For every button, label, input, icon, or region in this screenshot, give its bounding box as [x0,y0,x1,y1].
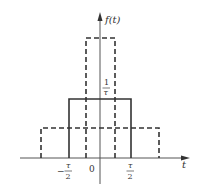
tick-right-denominator: 2 [128,172,133,181]
y-axis-arrow-icon [98,12,103,21]
height-label-numerator: 1 [104,78,109,87]
pulse-diagram: f(t) t 1 τ 0 − τ 2 τ 2 [0,0,198,191]
height-label-denominator: τ [104,88,109,97]
tick-left-sign: − [57,166,65,176]
x-axis-label: t [182,159,187,170]
tick-right-numerator: τ [128,161,133,170]
origin-label: 0 [89,164,95,174]
tick-left-denominator: 2 [66,172,71,181]
tick-left-numerator: τ [66,161,71,170]
y-axis-label: f(t) [104,14,121,25]
